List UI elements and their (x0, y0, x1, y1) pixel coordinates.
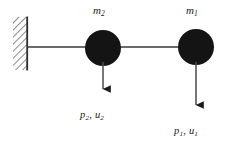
force-label-u1-subscript: 1 (194, 130, 198, 138)
mass-circle-m1 (178, 29, 214, 65)
force-label-p2-u2: p2, u2 (80, 110, 104, 121)
mass-circle-m2 (85, 30, 121, 66)
mass-label-m1-subscript: 1 (194, 9, 198, 18)
mass-label-m1-symbol: m (186, 4, 194, 16)
force-label-u2-subscript: 2 (100, 114, 104, 122)
fixed-support-wall (13, 17, 27, 71)
mass-label-m1: m1 (186, 5, 198, 16)
mass-label-m2-subscript: 2 (101, 9, 105, 18)
force-label-p2-subscript: 2 (85, 114, 89, 122)
mass-label-m2: m2 (93, 5, 105, 16)
force-label-p1-u1: p1, u1 (174, 126, 198, 137)
wall-hatch-fill (13, 17, 27, 70)
force-label-p1-subscript: 1 (179, 130, 183, 138)
mechanical-system-diagram: m2 m1 p2, u2 p1, u1 (0, 0, 230, 142)
diagram-canvas (0, 0, 230, 142)
mass-label-m2-symbol: m (93, 4, 101, 16)
